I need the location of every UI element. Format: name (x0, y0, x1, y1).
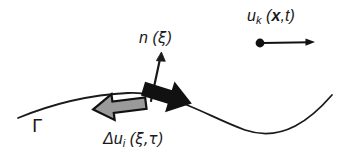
surface-label: Γ (32, 117, 42, 135)
slip-arg-open: ( (125, 130, 135, 147)
field-arg-close: ) (290, 7, 295, 24)
fault-surface-slip-diagram: n (ξ) Γ Δui (ξ,τ) uk (x,t) (0, 0, 340, 163)
field-prefix: u (247, 7, 256, 24)
observation-point-arrow (256, 38, 315, 47)
field-arg-rest: ,t (280, 7, 289, 24)
slip-arg-close: ) (158, 130, 163, 147)
normal-vector-label: n (ξ) (139, 30, 172, 46)
slip-label: Δui (ξ,τ) (103, 131, 163, 149)
normal-vector-arg-close: ) (166, 29, 171, 46)
slip-arg: ξ,τ (135, 130, 157, 148)
field-arg-open: ( (262, 7, 272, 24)
displacement-field-label: uk (x,t) (247, 8, 295, 26)
normal-vector-arg-open: ( (148, 29, 158, 46)
slip-prefix: Δu (103, 130, 123, 147)
slip-arrow-positive-side (140, 76, 194, 117)
normal-vector-symbol: n (139, 29, 148, 46)
